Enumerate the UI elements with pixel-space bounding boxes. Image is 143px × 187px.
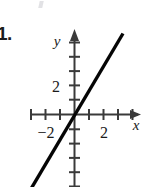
coordinate-plane: y x 2 −2 2 [0,0,143,187]
graph-figure: 1. [0,0,143,187]
y-axis-label: y [52,33,61,49]
x-axis-label: x [132,117,140,133]
y-tick-label-2: 2 [52,78,60,95]
y-axis-arrowhead [70,29,79,41]
x-tick-label-neg2: −2 [37,124,54,141]
x-tick-label-2: 2 [100,124,108,141]
